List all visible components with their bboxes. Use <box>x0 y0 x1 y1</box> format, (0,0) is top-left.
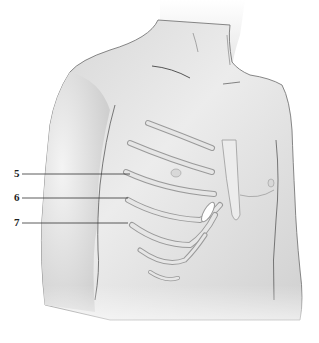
label-rib-6: 6 <box>14 192 20 203</box>
nipple-left <box>171 169 181 177</box>
nipple-right <box>268 179 274 187</box>
label-rib-5: 5 <box>14 168 20 179</box>
label-rib-7: 7 <box>14 217 20 228</box>
torso-illustration <box>0 0 319 343</box>
anatomical-figure: 5 6 7 <box>0 0 319 343</box>
